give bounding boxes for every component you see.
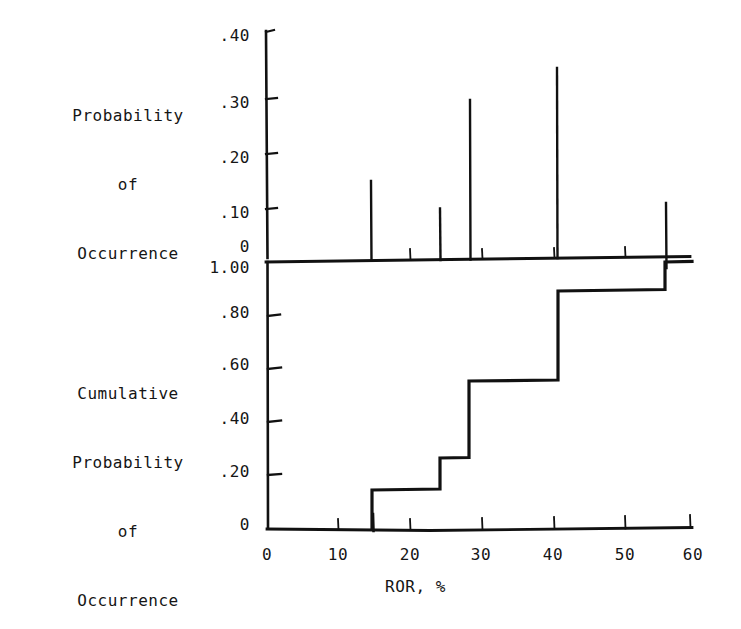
upper-xtick-20 [410, 249, 411, 260]
lower-ytick-40 [268, 421, 281, 423]
probability-chart-figure: Probability of Occurrence Cumulative Pro… [0, 0, 741, 629]
lower-xtick-60 [690, 515, 691, 528]
upper-plot-group [266, 30, 690, 268]
pmf-spike-2 [440, 209, 441, 261]
lower-ytick-20 [268, 474, 281, 475]
upper-ytick-30 [266, 98, 277, 99]
pmf-spike-4 [557, 68, 558, 258]
cdf-step-line [372, 262, 692, 529]
upper-ytick-10 [266, 208, 277, 209]
lower-ytick-60 [268, 368, 281, 370]
lower-ytick-80 [268, 315, 280, 317]
lower-xtick-30 [482, 518, 483, 530]
lower-xtick-50 [625, 516, 626, 529]
upper-xtick-50 [625, 247, 626, 257]
pmf-spike-3 [470, 100, 471, 260]
lower-xtick-20 [410, 519, 411, 530]
lower-plot-group [267, 262, 692, 532]
upper-ytick-20 [266, 153, 277, 154]
upper-y-axis-line [266, 31, 268, 258]
plot-canvas [0, 0, 741, 629]
upper-xtick-40 [554, 248, 555, 258]
lower-y-axis-line [268, 262, 269, 528]
pmf-spike-1 [371, 181, 372, 261]
lower-xtick-10 [338, 519, 339, 530]
lower-x-axis-line [267, 528, 692, 531]
pmf-spike-5 [666, 203, 667, 268]
upper-xtick-30 [482, 249, 483, 259]
lower-xtick-40 [554, 517, 555, 529]
